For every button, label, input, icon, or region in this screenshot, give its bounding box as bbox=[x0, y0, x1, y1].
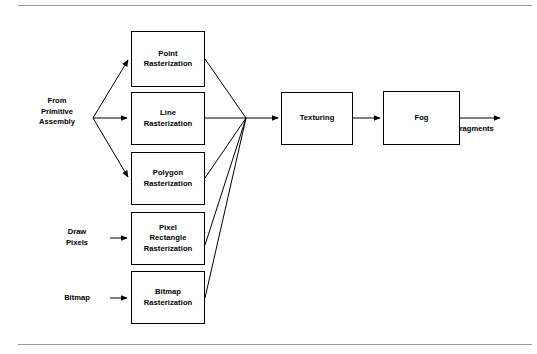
node-pixel-rectangle-rasterization[interactable]: Pixel Rectangle Rasterization bbox=[131, 212, 205, 265]
label-bitmap: Bitmap bbox=[48, 293, 106, 304]
primitive-assembly-fanout bbox=[93, 60, 128, 177]
label-from-primitive-assembly: From Primitive Assembly bbox=[20, 96, 94, 128]
node-bitmap-rasterization-label: Bitmap Rasterization bbox=[142, 287, 195, 308]
node-texturing-label: Texturing bbox=[298, 113, 337, 124]
top-divider-rule bbox=[18, 5, 532, 6]
node-fog-label: Fog bbox=[412, 113, 430, 124]
node-polygon-rasterization[interactable]: Polygon Rasterization bbox=[131, 152, 205, 205]
node-point-rasterization-label: Point Rasterization bbox=[142, 49, 195, 70]
rasterization-fanin bbox=[205, 59, 246, 298]
node-line-rasterization[interactable]: Line Rasterization bbox=[131, 92, 205, 145]
node-point-rasterization[interactable]: Point Rasterization bbox=[131, 31, 205, 87]
node-fog[interactable]: Fog bbox=[383, 91, 460, 145]
rasterization-pipeline-diagram: From Primitive Assembly Draw Pixels Bitm… bbox=[0, 0, 537, 354]
node-polygon-rasterization-label: Polygon Rasterization bbox=[142, 168, 195, 189]
node-texturing[interactable]: Texturing bbox=[281, 92, 353, 145]
node-pixel-rectangle-rasterization-label: Pixel Rectangle Rasterization bbox=[142, 223, 195, 255]
node-bitmap-rasterization[interactable]: Bitmap Rasterization bbox=[131, 271, 205, 324]
label-draw-pixels: Draw Pixels bbox=[48, 227, 106, 248]
node-line-rasterization-label: Line Rasterization bbox=[142, 108, 195, 129]
label-fragments: Fragments bbox=[455, 124, 531, 135]
bottom-divider-rule bbox=[18, 344, 532, 345]
